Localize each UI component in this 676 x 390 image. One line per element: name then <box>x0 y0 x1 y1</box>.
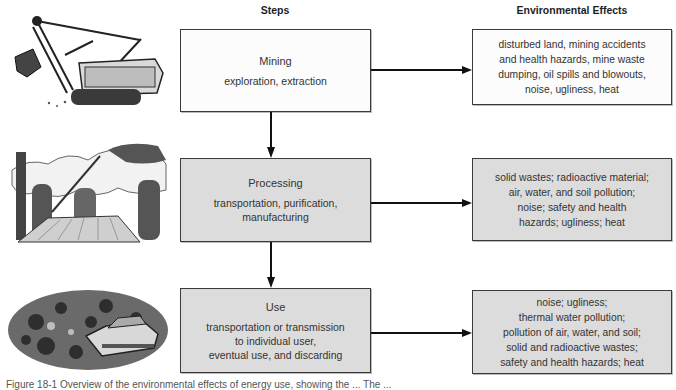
connector-line-processing <box>371 202 463 204</box>
step-subtitle: exploration, extraction <box>224 74 327 88</box>
effect-box-processing: solid wastes; radioactive material; air,… <box>472 158 672 241</box>
step-title: Use <box>266 300 286 314</box>
arrow-down-icon <box>267 277 275 288</box>
power-shovel-illustration-icon <box>5 5 170 110</box>
step-box-use: Use transportation or transmission to in… <box>180 288 371 373</box>
step-title: Processing <box>248 176 302 190</box>
step-box-mining: Mining exploration, extraction <box>180 29 371 112</box>
step-subtitle: transportation or transmission to indivi… <box>206 320 344 362</box>
step-title: Mining <box>259 54 291 68</box>
step-box-processing: Processing transportation, purification,… <box>180 158 371 242</box>
arrow-right-icon <box>462 66 472 74</box>
effect-box-mining: disturbed land, mining accidents and hea… <box>472 29 672 105</box>
figure-caption: Figure 18-1 Overview of the environmenta… <box>6 379 391 390</box>
flow-line-mining-to-processing <box>270 112 272 148</box>
junkyard-illustration-icon <box>6 282 171 374</box>
arrow-down-icon <box>267 147 275 158</box>
step-subtitle: transportation, purification, manufactur… <box>214 196 338 224</box>
effect-box-use: noise; ugliness; thermal water pollution… <box>472 290 672 374</box>
effect-text: solid wastes; radioactive material; air,… <box>495 170 649 230</box>
flow-line-processing-to-use <box>270 242 272 278</box>
effect-text: noise; ugliness; thermal water pollution… <box>500 295 644 370</box>
effect-text: disturbed land, mining accidents and hea… <box>498 37 646 97</box>
arrow-right-icon <box>462 199 472 207</box>
connector-line-mining <box>371 69 463 71</box>
refinery-illustration-icon <box>8 140 168 245</box>
connector-line-use <box>371 332 463 334</box>
steps-column-header: Steps <box>180 4 370 16</box>
effects-column-header: Environmental Effects <box>472 4 672 16</box>
arrow-right-icon <box>462 329 472 337</box>
